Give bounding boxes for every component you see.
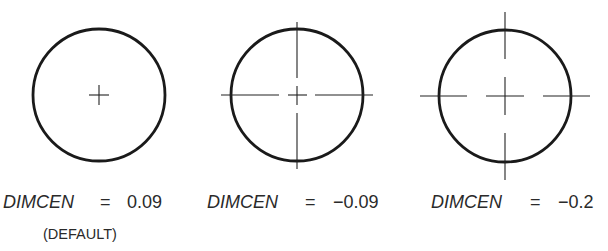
default-note: (DEFAULT) [43, 226, 117, 242]
center-mark-icon [486, 77, 524, 115]
dimcen-diagram: DIMCEN = 0.09 (DEFAULT) DIMCEN = −0.09 D… [0, 0, 608, 251]
variable-name: DIMCEN [3, 192, 75, 212]
center-mark-icon [89, 85, 109, 105]
value: −0.09 [333, 192, 379, 212]
value: −0.2 [558, 192, 594, 212]
variable-name: DIMCEN [431, 192, 503, 212]
label-2: DIMCEN = −0.09 [207, 192, 379, 212]
equals-sign: = [530, 192, 541, 212]
value: 0.09 [127, 192, 162, 212]
figure-dimcen-default [33, 29, 165, 161]
label-3: DIMCEN = −0.2 [431, 192, 594, 212]
equals-sign: = [305, 192, 316, 212]
figure-dimcen-neg-02 [420, 12, 590, 180]
figure-dimcen-neg-009 [221, 22, 373, 169]
variable-name: DIMCEN [207, 192, 279, 212]
equals-sign: = [100, 192, 111, 212]
label-1: DIMCEN = 0.09 (DEFAULT) [3, 192, 162, 242]
center-mark-icon [288, 86, 307, 105]
